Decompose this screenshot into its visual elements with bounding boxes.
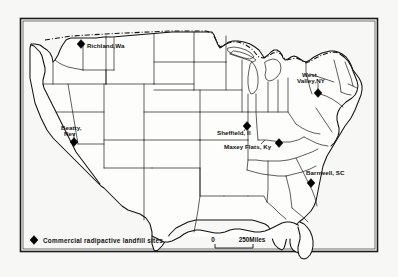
scale-zero-label: 0	[211, 236, 215, 243]
label-barnwell: Barnwell, SC	[306, 169, 345, 176]
map-figure: Richland,Wa Beatty, Nev Sheffield, Il Ma…	[0, 0, 398, 277]
label-richland: Richland,Wa	[87, 42, 125, 49]
legend-diamond-icon	[30, 236, 38, 245]
florida-peninsula	[298, 222, 313, 259]
legend-text: Commercial radipactive landfill sites	[43, 237, 163, 245]
map-legend: Commercial radipactive landfill sites	[30, 236, 163, 246]
label-maxey-flats: Maxey Flats, Ky	[224, 143, 272, 150]
label-sheffield: Sheffield, Il	[217, 129, 251, 136]
us-map-svg: Richland,Wa Beatty, Nev Sheffield, Il Ma…	[0, 0, 398, 277]
label-beatty-line2: Nev	[64, 130, 76, 137]
us-outline	[30, 32, 362, 251]
map-geometry	[30, 31, 362, 259]
scale-rule-line	[215, 244, 253, 248]
scale-max-label: 250Miles	[239, 236, 266, 243]
label-west-valley-line2: Valley,NY	[297, 77, 326, 84]
scale-bar: 0 250Miles	[211, 236, 266, 248]
